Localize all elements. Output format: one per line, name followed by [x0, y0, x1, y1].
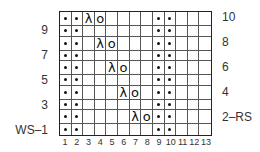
- purl-dot-icon: [60, 37, 72, 51]
- chart-cell: [199, 51, 211, 62]
- purl-dot-icon: [72, 37, 84, 51]
- chart-cell: [83, 61, 95, 75]
- chart-cell: [83, 26, 95, 37]
- purl-dot-icon: [60, 124, 72, 135]
- chart-cell: [106, 86, 118, 100]
- decrease-lambda-icon: λ: [85, 12, 93, 25]
- row-label: WS–1: [0, 123, 48, 137]
- chart-cell: [141, 37, 153, 51]
- purl-dot-icon: [72, 12, 84, 26]
- purl-dot-icon: [165, 12, 177, 26]
- decrease-lambda-icon: λ: [96, 37, 104, 50]
- chart-cell: λ: [118, 86, 130, 100]
- chart-cell: [130, 51, 142, 62]
- chart-cell: [199, 86, 211, 100]
- chart-cell: [141, 12, 153, 26]
- row-label: 10: [222, 10, 235, 24]
- chart-cell: o: [106, 37, 118, 51]
- purl-dot-icon: [72, 75, 84, 86]
- purl-dot-icon: [72, 86, 84, 100]
- column-number: 11: [177, 137, 189, 147]
- chart-cell: [95, 26, 107, 37]
- yarn-over-icon: o: [108, 37, 116, 50]
- chart-cell: [176, 86, 188, 100]
- chart-cell: [141, 51, 153, 62]
- chart-cell: [106, 26, 118, 37]
- purl-dot-icon: [153, 26, 165, 37]
- chart-cell: [188, 61, 200, 75]
- chart-cell: [176, 110, 188, 124]
- purl-dot-icon: [60, 12, 72, 26]
- chart-cell: o: [118, 61, 130, 75]
- purl-dot-icon: [165, 37, 177, 51]
- chart-cell: [95, 86, 107, 100]
- purl-dot-icon: [60, 51, 72, 62]
- chart-cell: [83, 51, 95, 62]
- row-label: 4: [222, 85, 229, 99]
- chart-cell: [118, 100, 130, 111]
- purl-dot-icon: [153, 61, 165, 75]
- chart-cell: [188, 110, 200, 124]
- column-number: 5: [106, 137, 118, 147]
- column-number: 12: [188, 137, 200, 147]
- chart-cell: [176, 51, 188, 62]
- purl-dot-icon: [165, 124, 177, 135]
- purl-dot-icon: [165, 110, 177, 124]
- row-label: 9: [0, 23, 48, 37]
- purl-dot-icon: [60, 61, 72, 75]
- purl-dot-icon: [60, 100, 72, 111]
- chart-cell: [176, 12, 188, 26]
- column-number: 6: [118, 137, 130, 147]
- chart-cell: [188, 124, 200, 135]
- purl-dot-icon: [72, 26, 84, 37]
- decrease-lambda-icon: λ: [108, 61, 116, 74]
- purl-dot-icon: [165, 100, 177, 111]
- chart-cell: [141, 26, 153, 37]
- chart-cell: o: [141, 110, 153, 124]
- chart-cell: [95, 124, 107, 135]
- purl-dot-icon: [165, 26, 177, 37]
- chart-cell: λ: [83, 12, 95, 26]
- chart-cell: [106, 12, 118, 26]
- column-number: 9: [153, 137, 165, 147]
- column-number: 7: [130, 137, 142, 147]
- chart-cell: [106, 124, 118, 135]
- chart-cell: [118, 124, 130, 135]
- chart-cell: [95, 51, 107, 62]
- purl-dot-icon: [165, 61, 177, 75]
- purl-dot-icon: [153, 51, 165, 62]
- chart-cell: [95, 100, 107, 111]
- purl-dot-icon: [60, 26, 72, 37]
- purl-dot-icon: [60, 86, 72, 100]
- yarn-over-icon: o: [96, 12, 104, 25]
- purl-dot-icon: [72, 124, 84, 135]
- chart-cell: [188, 86, 200, 100]
- row-label: 2–RS: [222, 110, 252, 124]
- chart-cell: [199, 12, 211, 26]
- chart-cell: [176, 26, 188, 37]
- purl-dot-icon: [72, 110, 84, 124]
- row-label: 6: [222, 60, 229, 74]
- chart-cell: [188, 26, 200, 37]
- decrease-lambda-icon: λ: [131, 110, 139, 123]
- chart-cell: [188, 100, 200, 111]
- yarn-over-icon: o: [143, 110, 151, 123]
- column-number: 2: [71, 137, 83, 147]
- chart-cell: [83, 86, 95, 100]
- column-number: 10: [165, 137, 177, 147]
- column-number: 4: [94, 137, 106, 147]
- chart-cell: [176, 124, 188, 135]
- chart-cell: [188, 37, 200, 51]
- yarn-over-icon: o: [119, 61, 127, 74]
- chart-cell: [176, 61, 188, 75]
- chart-cell: [199, 26, 211, 37]
- purl-dot-icon: [165, 51, 177, 62]
- chart-cell: [130, 124, 142, 135]
- chart-cell: [130, 12, 142, 26]
- chart-cell: [141, 75, 153, 86]
- purl-dot-icon: [165, 75, 177, 86]
- chart-cell: [188, 75, 200, 86]
- chart-cell: [106, 75, 118, 86]
- chart-cell: λ: [130, 110, 142, 124]
- chart-cell: [199, 124, 211, 135]
